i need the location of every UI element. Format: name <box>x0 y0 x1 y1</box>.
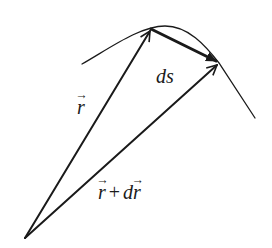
vector-diagram <box>0 0 272 248</box>
ds-symbol: ds <box>156 65 174 87</box>
position-vector-r <box>25 31 150 238</box>
r-vector-symbol: r <box>98 182 106 202</box>
label-r-vector: r <box>77 97 85 117</box>
arc-length-ds-vector <box>151 29 216 61</box>
label-ds: ds <box>156 66 174 86</box>
label-r-plus-dr: r+dr <box>98 182 141 202</box>
r-vector-symbol-2: r <box>133 182 141 202</box>
r-vector-symbol: r <box>77 97 85 117</box>
position-vector-r-plus-dr <box>25 65 217 238</box>
